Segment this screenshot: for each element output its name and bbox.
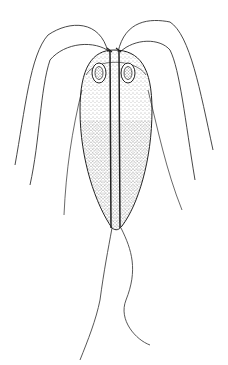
organism-illustration: [0, 0, 228, 365]
nucleus-left: [92, 63, 106, 83]
nucleus-right: [121, 63, 135, 83]
body: [80, 50, 154, 235]
median-axostyle-right: [119, 50, 120, 228]
caudal-flagella: [80, 228, 150, 360]
median-axostyle-left: [110, 50, 111, 228]
